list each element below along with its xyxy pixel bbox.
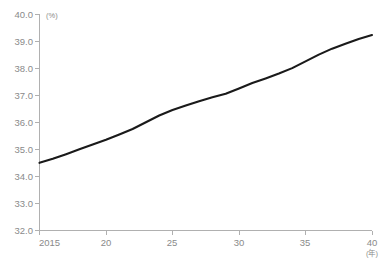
x-tick-label: 25 bbox=[167, 237, 178, 248]
y-tick-label: 36.0 bbox=[15, 117, 34, 128]
x-tick-label: 20 bbox=[101, 237, 112, 248]
y-tick-label: 33.0 bbox=[15, 198, 34, 209]
y-tick-label: 34.0 bbox=[15, 171, 34, 182]
x-tick-label: 35 bbox=[300, 237, 311, 248]
y-tick-label: 39.0 bbox=[15, 36, 34, 47]
y-tick-label: 35.0 bbox=[15, 144, 34, 155]
y-tick-label: 40.0 bbox=[15, 9, 34, 20]
y-axis-unit-label: (%) bbox=[46, 11, 58, 20]
y-tick-label: 38.0 bbox=[15, 63, 34, 74]
y-tick-label: 32.0 bbox=[15, 225, 34, 236]
x-tick-label: 40 bbox=[367, 237, 378, 248]
y-tick-label: 37.0 bbox=[15, 90, 34, 101]
chart-background bbox=[0, 0, 385, 259]
chart-container: 40.0 39.0 38.0 37.0 36.0 35.0 34.0 33.0 … bbox=[0, 0, 385, 259]
x-tick-label: 30 bbox=[234, 237, 245, 248]
x-tick-label: 2015 bbox=[39, 237, 60, 248]
x-axis-unit-label: (年) bbox=[366, 248, 378, 258]
line-chart: 40.0 39.0 38.0 37.0 36.0 35.0 34.0 33.0 … bbox=[0, 0, 385, 259]
y-axis-tick-labels: 40.0 39.0 38.0 37.0 36.0 35.0 34.0 33.0 … bbox=[15, 9, 34, 236]
